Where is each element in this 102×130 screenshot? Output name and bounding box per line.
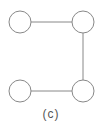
nodes: [9, 11, 94, 102]
node-bottom-right: [72, 80, 94, 102]
edges: [31, 22, 83, 91]
figure-caption: (c): [0, 107, 102, 121]
node-bottom-left: [9, 80, 31, 102]
node-top-left: [9, 11, 31, 33]
node-top-right: [72, 11, 94, 33]
